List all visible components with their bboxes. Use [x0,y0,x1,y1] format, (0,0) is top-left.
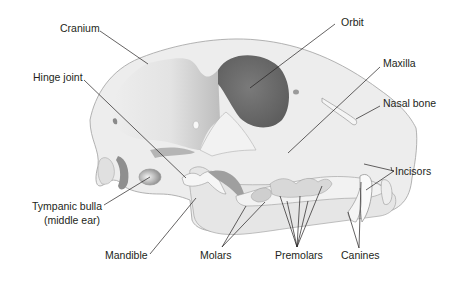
label-premolars: Premolars [275,249,323,261]
label-hinge-joint: Hinge joint [33,71,83,83]
label-incisors: Incisors [395,165,431,177]
label-tympanic-bulla-line1: Tympanic bulla [32,200,100,212]
foramen [293,90,299,95]
label-tympanic-bulla: Tympanic bulla (middle ear) [32,200,100,226]
label-tympanic-bulla-line2: (middle ear) [32,214,100,226]
foramen [193,121,199,129]
label-cranium: Cranium [60,22,100,34]
leader-cranium [100,31,148,64]
label-orbit: Orbit [341,16,364,28]
label-molars: Molars [200,249,232,261]
leader-mandible [150,198,196,254]
label-canines: Canines [341,249,380,261]
label-mandible: Mandible [105,249,148,261]
label-nasal-bone: Nasal bone [383,97,436,109]
label-maxilla: Maxilla [383,57,416,69]
cat-skull-diagram [0,0,455,283]
